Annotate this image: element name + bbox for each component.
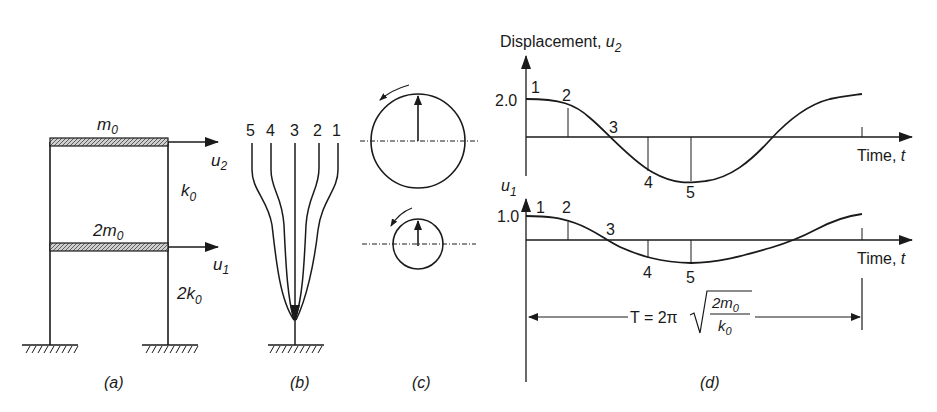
point-label: 5 <box>686 269 695 286</box>
point-label: 3 <box>606 221 615 238</box>
panel-c-phasors <box>360 85 478 269</box>
chart-u2: Displacement, u2 2.0 1 2 3 4 5 Time, t <box>495 33 912 201</box>
mode-line-label: 4 <box>266 122 275 139</box>
ground-support-icon <box>22 345 78 353</box>
top-floor-mass <box>50 138 168 146</box>
mode-line-label: 2 <box>313 122 322 139</box>
panel-a-labels: m0 2m0 k0 2k0 u2 u1 (a) <box>92 115 229 391</box>
rotation-arrow-icon <box>380 85 409 100</box>
point-label: 5 <box>686 184 695 201</box>
period-annotation: T = 2π 2m0 k0 <box>529 278 862 337</box>
x-axis-label: Time, t <box>857 147 906 164</box>
top-stiffness-label: k0 <box>181 181 197 204</box>
diagram-canvas: m0 2m0 k0 2k0 u2 u1 (a) 5 4 3 2 1 (b) <box>0 0 937 412</box>
mode-line-label: 3 <box>290 122 299 139</box>
chart-u1: u1 1.0 1 2 3 4 5 Time, t <box>497 177 912 382</box>
top-ylabel: Displacement, u2 <box>500 33 622 55</box>
point-label: 1 <box>536 199 545 216</box>
u2-label: u2 <box>211 151 227 173</box>
panel-a-frame <box>22 138 218 353</box>
rotation-arrow-icon <box>391 208 412 226</box>
mode-line-label: 5 <box>246 122 255 139</box>
top-mass-label: m0 <box>97 115 118 137</box>
point-label: 3 <box>609 119 618 136</box>
u2-curve <box>526 94 862 182</box>
mid-mass-label: 2m0 <box>92 221 124 243</box>
bottom-stiffness-label: 2k0 <box>176 284 202 307</box>
mode-line-label: 1 <box>332 122 341 139</box>
u1-curve <box>526 214 862 263</box>
point-label: 2 <box>562 87 571 104</box>
u1-label: u1 <box>213 255 229 277</box>
point-label: 4 <box>643 264 652 281</box>
panel-b-labels: 5 4 3 2 1 (b) <box>246 122 341 391</box>
point-label: 1 <box>531 79 540 96</box>
bottom-ylabel: u1 <box>501 177 517 199</box>
u2-peak-value: 2.0 <box>495 92 517 109</box>
caption-b: (b) <box>290 374 310 391</box>
panel-b-mode-lines <box>252 143 338 345</box>
caption-a: (a) <box>104 374 124 391</box>
caption-d: (d) <box>700 374 720 391</box>
ground-support-icon <box>268 345 324 353</box>
point-label: 2 <box>562 199 571 216</box>
ground-support-icon <box>142 345 198 353</box>
u1-peak-value: 1.0 <box>497 208 519 225</box>
period-denominator: k0 <box>718 317 733 337</box>
point-label: 4 <box>644 174 653 191</box>
mid-floor-mass <box>50 243 168 251</box>
caption-c: (c) <box>412 374 431 391</box>
period-numerator: 2m0 <box>711 294 740 314</box>
x-axis-label: Time, t <box>857 250 906 267</box>
period-formula: T = 2π <box>630 309 678 326</box>
